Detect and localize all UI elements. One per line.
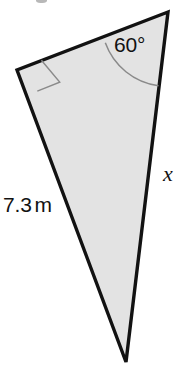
- triangle-shape: [17, 12, 168, 362]
- side-measure-unit: m: [34, 193, 51, 216]
- side-measure-value: 7.3: [3, 193, 32, 216]
- side-label-x: x: [163, 163, 173, 185]
- side-label-measure: 7.3m: [3, 194, 52, 215]
- triangle-svg: [0, 0, 187, 369]
- angle-label: 60°: [114, 34, 145, 55]
- geometry-figure: 60° x 7.3m: [0, 0, 187, 369]
